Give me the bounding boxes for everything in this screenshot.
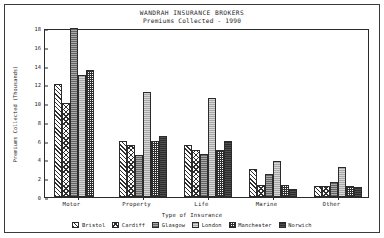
bar	[119, 141, 127, 197]
bar	[135, 155, 143, 197]
y-axis-tick-label: 18	[11, 27, 45, 32]
bar-group	[314, 30, 362, 197]
bar	[192, 150, 200, 197]
bar	[70, 28, 78, 197]
bar	[143, 92, 151, 197]
chart-subtitle: Premiums Collected - 1990	[5, 17, 379, 25]
x-axis-category-label: Marine	[256, 201, 277, 207]
x-axis-tick-mark	[273, 197, 274, 200]
legend-item: Manchester	[229, 222, 272, 228]
legend-swatch	[192, 222, 199, 228]
y-axis-tick-label: 16	[11, 46, 45, 51]
legend-item: Norwich	[279, 222, 312, 228]
x-axis-tick-mark	[338, 197, 339, 200]
bar	[330, 182, 338, 197]
legend-swatch	[72, 222, 79, 228]
y-axis-tick-label: 8	[11, 121, 45, 126]
bar	[54, 84, 62, 197]
figure-frame: WANDRAH INSURANCE BROKERS Premiums Colle…	[4, 4, 380, 233]
bar	[354, 187, 362, 197]
legend-label: Glasgow	[162, 222, 185, 228]
chart-title: WANDRAH INSURANCE BROKERS	[5, 9, 379, 17]
x-axis-category-label: Life	[194, 201, 208, 207]
x-axis-category-label: Motor	[63, 201, 81, 207]
bar	[281, 185, 289, 197]
y-axis-tick-label: 6	[11, 140, 45, 145]
legend-item: Glasgow	[152, 222, 185, 228]
y-axis-tick-mark	[45, 123, 48, 124]
bar-group	[119, 30, 167, 197]
legend-label: Cardiff	[122, 222, 145, 228]
y-axis-tick-label: 10	[11, 102, 45, 107]
bar	[346, 186, 354, 197]
legend-item: Bristol	[72, 222, 105, 228]
y-axis-tick-mark	[45, 180, 48, 181]
y-axis-tick-mark	[45, 67, 48, 68]
legend-label: Norwich	[288, 222, 311, 228]
y-axis-tick-label: 4	[11, 159, 45, 164]
bar	[224, 141, 232, 197]
x-axis-category-label: Other	[323, 201, 341, 207]
legend-swatch	[229, 222, 236, 228]
y-axis-tick-mark	[45, 105, 48, 106]
y-axis-tick-mark	[45, 199, 48, 200]
legend-swatch	[112, 222, 119, 228]
legend-item: London	[192, 222, 222, 228]
legend-label: Manchester	[238, 222, 271, 228]
y-axis-title: Premiums Collected (Thousands)	[10, 29, 20, 198]
y-axis-tick-mark	[45, 30, 48, 31]
y-axis-tick-mark	[45, 142, 48, 143]
chart-title-block: WANDRAH INSURANCE BROKERS Premiums Colle…	[5, 9, 379, 24]
bar	[257, 185, 265, 197]
bar-group	[54, 30, 102, 197]
bar	[265, 174, 273, 197]
y-axis-tick-label: 2	[11, 178, 45, 183]
bar	[249, 169, 257, 197]
y-axis-tick-mark	[45, 86, 48, 87]
y-axis-tick-label: 14	[11, 65, 45, 70]
plot-area: 024681012141618	[44, 29, 369, 198]
y-axis-tick-mark	[45, 161, 48, 162]
x-axis-tick-mark	[143, 197, 144, 200]
bar	[289, 189, 297, 197]
y-axis-title-text: Premiums Collected (Thousands)	[12, 65, 18, 162]
bar	[151, 141, 159, 197]
bar	[208, 98, 216, 197]
bar	[184, 145, 192, 197]
bar	[273, 161, 281, 197]
x-axis-category-label: Property	[122, 201, 151, 207]
chart-page: WANDRAH INSURANCE BROKERS Premiums Colle…	[0, 0, 384, 238]
bar-group	[184, 30, 232, 197]
legend-item: Cardiff	[112, 222, 145, 228]
y-axis-tick-label: 0	[11, 196, 45, 201]
legend-swatch	[279, 222, 286, 228]
bar	[78, 75, 86, 197]
legend-label: London	[202, 222, 222, 228]
bar-group	[249, 30, 297, 197]
x-axis-title: Type of Insurance	[5, 212, 379, 218]
y-axis-tick-label: 12	[11, 84, 45, 89]
legend-swatch	[152, 222, 159, 228]
chart-legend: BristolCardiffGlasgowLondonManchesterNor…	[5, 222, 379, 228]
bar	[159, 136, 167, 197]
bar	[338, 167, 346, 197]
y-axis-tick-mark	[45, 48, 48, 49]
bar	[216, 150, 224, 197]
bar	[127, 145, 135, 197]
bar	[62, 103, 70, 197]
bar	[86, 70, 94, 197]
bar	[200, 154, 208, 197]
x-axis-tick-mark	[78, 197, 79, 200]
legend-label: Bristol	[82, 222, 105, 228]
bar	[314, 186, 322, 197]
bar	[322, 186, 330, 197]
x-axis-tick-mark	[208, 197, 209, 200]
